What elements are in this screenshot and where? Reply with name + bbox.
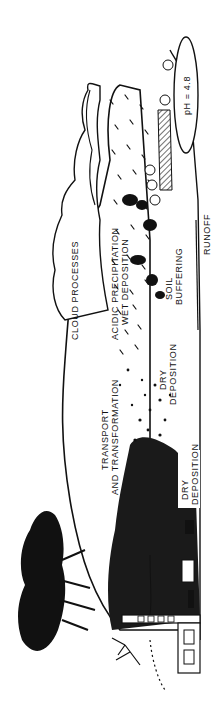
svg-text:CLOUD PROCESSES: CLOUD PROCESSES	[70, 241, 80, 340]
svg-text:DEPOSITION: DEPOSITION	[190, 443, 200, 505]
svg-text:WET DEPOSITION: WET DEPOSITION	[120, 239, 130, 325]
label-wet-deposition: WET DEPOSITION	[120, 239, 130, 325]
svg-text:BUFFERING: BUFFERING	[174, 248, 184, 305]
svg-text:DRY: DRY	[180, 479, 190, 500]
label-acidic-precipitation: ACIDIC PRECIPITATION	[110, 227, 120, 340]
svg-text:DRY: DRY	[158, 369, 168, 390]
svg-text:RUNOFF: RUNOFF	[202, 214, 212, 255]
cloud	[53, 84, 108, 321]
label-runoff: RUNOFF	[202, 214, 212, 255]
runoff-stream	[196, 220, 198, 330]
label-dry-deposition-1: DRY	[158, 369, 168, 390]
tree-silhouette	[18, 511, 95, 651]
svg-text:TRANSPORT: TRANSPORT	[100, 409, 110, 470]
label-soil: SOIL	[164, 277, 174, 300]
hatched-soil	[158, 110, 172, 190]
label-dry-deposition-2: DRY	[180, 479, 190, 500]
svg-text:ACIDIC PRECIPITATION: ACIDIC PRECIPITATION	[110, 227, 120, 340]
label-dry-deposition-2b: DEPOSITION	[190, 443, 200, 505]
label-transformation: AND TRANSFORMATION	[110, 379, 120, 495]
svg-text:AND TRANSFORMATION: AND TRANSFORMATION	[110, 379, 120, 495]
label-cloud-processes: CLOUD PROCESSES	[70, 241, 80, 340]
label-buffering: BUFFERING	[174, 248, 184, 305]
svg-text:SOIL: SOIL	[164, 277, 174, 300]
svg-text:DEPOSITION: DEPOSITION	[168, 343, 178, 405]
acid-deposition-diagram: CLOUD PROCESSES ACIDIC PRECIPITATION WET…	[0, 0, 223, 721]
small-tree	[112, 638, 165, 690]
label-transport: TRANSPORT	[100, 409, 110, 470]
label-lake-ph: pH = 4.8	[182, 76, 192, 115]
label-dry-deposition-1b: DEPOSITION	[168, 343, 178, 405]
svg-text:pH = 4.8: pH = 4.8	[182, 76, 192, 115]
